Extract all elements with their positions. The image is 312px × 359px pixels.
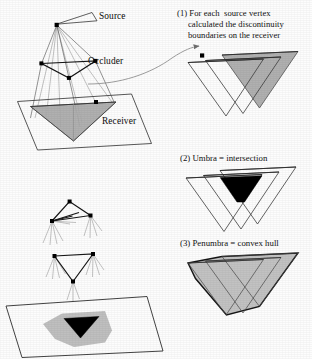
- step1-caption-line-3: boundaries on the receiver: [188, 30, 280, 41]
- mesh-lower-vertex-c: [71, 280, 75, 284]
- mesh-upper-vertex-c: [89, 214, 93, 218]
- mesh-wireframe-lower: [46, 252, 104, 302]
- step1-artwork: [188, 52, 298, 117]
- step2-caption: (2) Umbra = intersection: [180, 153, 267, 163]
- label-source: Source: [99, 11, 126, 21]
- source-vertex-dot: [55, 23, 59, 27]
- mesh-lower-vertex-a: [53, 254, 57, 258]
- step1-caption-line-2: calculated the discontinuity: [188, 19, 284, 30]
- umbra-region: [220, 176, 262, 202]
- source-pointer-icon: [57, 13, 98, 25]
- step2-artwork: [186, 167, 296, 232]
- mesh-lower-vertex-b: [91, 252, 95, 256]
- label-occluder: Occluder: [88, 56, 123, 66]
- result-receiver-plane: [6, 297, 163, 358]
- mesh-upper-vertex-a: [50, 219, 54, 223]
- mesh-wireframe-upper: [43, 200, 102, 246]
- step3-artwork: [188, 253, 298, 315]
- occluder-vertex-dot-a: [39, 61, 43, 65]
- scene-source-occluder-receiver: [18, 13, 152, 151]
- figure-root: Source Occluder Receiver (1) For each so…: [0, 0, 312, 359]
- step3-caption: (3) Penumbra = convex hull: [180, 238, 279, 248]
- occluder-vertex-dot-c: [67, 76, 71, 80]
- label-receiver: Receiver: [102, 116, 136, 126]
- step1-caption-line-1: (1) For each source vertex: [177, 8, 271, 19]
- diagram-canvas: [0, 0, 312, 359]
- receiver-vertex-dot: [94, 100, 98, 104]
- mesh-upper-vertex-b: [68, 200, 72, 204]
- step1-source-vertex-dot: [200, 53, 204, 57]
